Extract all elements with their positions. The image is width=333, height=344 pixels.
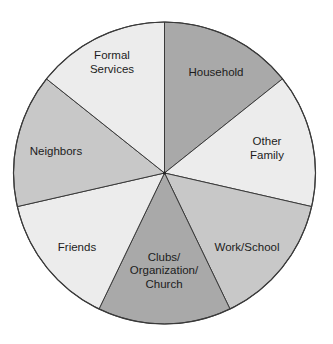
slice-label-line: Services: [90, 63, 134, 75]
slice-label-line: Organization/: [130, 264, 199, 276]
slice-label-line: Household: [189, 66, 244, 78]
slice-label-other-family: OtherFamily: [250, 135, 284, 161]
slice-label-household: Household: [189, 66, 244, 78]
slice-label-line: Church: [145, 278, 182, 290]
slice-label-friends: Friends: [58, 241, 97, 253]
slice-label-line: Other: [253, 135, 282, 147]
slice-label-line: Formal: [94, 49, 130, 61]
slice-label-line: Family: [250, 149, 284, 161]
slice-label-line: Friends: [58, 241, 97, 253]
slice-label-line: Neighbors: [30, 145, 83, 157]
slice-label-formal-services: FormalServices: [90, 49, 134, 75]
pie-center-dot: [163, 171, 166, 174]
pie-chart: HouseholdOtherFamilyWork/SchoolClubs/Org…: [0, 0, 333, 344]
slice-label-neighbors: Neighbors: [30, 145, 83, 157]
slice-label-work-school: Work/School: [215, 241, 280, 253]
slice-label-line: Clubs/: [148, 251, 181, 263]
slice-label-line: Work/School: [215, 241, 280, 253]
